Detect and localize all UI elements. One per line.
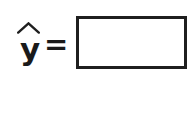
answer-blank-value[interactable]	[79, 19, 184, 66]
equals-sign: =	[44, 29, 66, 59]
y-hat-symbol: y	[15, 20, 45, 68]
regression-equation: y =	[0, 0, 195, 115]
answer-blank-box[interactable]	[76, 16, 187, 69]
y-variable-letter: y	[15, 30, 45, 68]
worksheet-canvas: y =	[0, 0, 195, 115]
